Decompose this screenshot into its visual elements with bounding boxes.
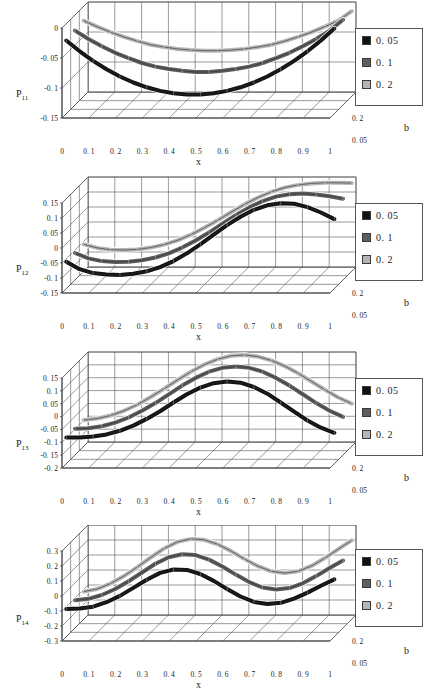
svg-text:0. 5: 0. 5 xyxy=(190,497,202,506)
svg-text:0: 0 xyxy=(54,244,58,253)
legend-p11: 0. 05 0. 1 0. 2 xyxy=(355,28,423,106)
legend-item-0-p12[interactable]: 0. 05 xyxy=(356,204,422,226)
legend-item-1-p12[interactable]: 0. 1 xyxy=(356,226,422,248)
svg-text:-0. 2: -0. 2 xyxy=(44,622,58,631)
svg-text:0. 5: 0. 5 xyxy=(190,670,202,679)
legend-item-0-p14[interactable]: 0. 05 xyxy=(356,550,422,572)
y-axis-title-p14: P14 xyxy=(16,613,29,627)
svg-text:0. 9: 0. 9 xyxy=(298,497,310,506)
legend-swatch-icon xyxy=(362,36,371,45)
svg-text:0. 4: 0. 4 xyxy=(164,147,176,156)
legend-item-1-p14[interactable]: 0. 1 xyxy=(356,572,422,594)
svg-text:-0. 1: -0. 1 xyxy=(44,607,58,616)
svg-text:-0. 15: -0. 15 xyxy=(41,289,59,298)
legend-swatch-icon xyxy=(362,233,371,242)
depth-tick-back-p14: 0. 2 xyxy=(352,637,363,646)
depth-axis-title-p14: b xyxy=(404,645,409,656)
svg-text:0. 2: 0. 2 xyxy=(47,562,59,571)
depth-tick-front-p12: 0. 05 xyxy=(352,311,367,320)
x-axis-title-p14: x xyxy=(196,679,201,690)
legend-p13: 0. 05 0. 1 0. 2 xyxy=(355,378,423,456)
legend-swatch-icon xyxy=(362,211,371,220)
svg-text:0. 7: 0. 7 xyxy=(244,497,256,506)
legend-swatch-icon xyxy=(362,557,371,566)
svg-text:0. 2: 0. 2 xyxy=(110,670,122,679)
chart-panel-p11: 0-0. 05-0. 1-0. 1500. 10. 20. 30. 40. 50… xyxy=(0,0,432,175)
svg-text:0. 8: 0. 8 xyxy=(271,497,283,506)
legend-item-1-p11[interactable]: 0. 1 xyxy=(356,51,422,73)
svg-text:0. 6: 0. 6 xyxy=(217,147,229,156)
svg-text:0. 2: 0. 2 xyxy=(110,322,122,331)
svg-text:0. 1: 0. 1 xyxy=(83,670,95,679)
legend-swatch-icon xyxy=(362,386,371,395)
svg-text:0. 6: 0. 6 xyxy=(217,497,229,506)
svg-text:0: 0 xyxy=(60,497,64,506)
x-axis-title-p13: x xyxy=(196,506,201,517)
svg-text:0. 9: 0. 9 xyxy=(298,670,310,679)
svg-text:1: 1 xyxy=(328,147,332,156)
svg-text:0. 3: 0. 3 xyxy=(137,497,149,506)
svg-text:0. 4: 0. 4 xyxy=(164,670,176,679)
svg-text:0. 1: 0. 1 xyxy=(83,322,95,331)
legend-swatch-icon xyxy=(362,58,371,67)
chart-panel-p12: 0. 150. 10. 050-0. 05-0. 1-0. 1500. 10. … xyxy=(0,175,432,350)
svg-text:0: 0 xyxy=(60,322,64,331)
depth-tick-front-p14: 0. 05 xyxy=(352,659,367,668)
depth-tick-back-p11: 0. 2 xyxy=(352,114,363,123)
svg-text:1: 1 xyxy=(328,322,332,331)
svg-text:0. 6: 0. 6 xyxy=(217,322,229,331)
depth-axis-title-p13: b xyxy=(404,472,409,483)
depth-tick-front-p13: 0. 05 xyxy=(352,486,367,495)
svg-text:0: 0 xyxy=(54,24,58,33)
svg-text:0. 7: 0. 7 xyxy=(244,147,256,156)
x-axis-title-p12: x xyxy=(196,331,201,342)
legend-item-2-p12[interactable]: 0. 2 xyxy=(356,248,422,270)
legend-item-1-p13[interactable]: 0. 1 xyxy=(356,401,422,423)
legend-swatch-icon xyxy=(362,430,371,439)
svg-text:-0. 2: -0. 2 xyxy=(44,464,58,473)
svg-text:-0. 05: -0. 05 xyxy=(41,425,59,434)
legend-item-2-p13[interactable]: 0. 2 xyxy=(356,423,422,445)
svg-text:0: 0 xyxy=(60,147,64,156)
svg-text:0. 8: 0. 8 xyxy=(271,322,283,331)
svg-text:1: 1 xyxy=(328,497,332,506)
svg-text:0. 1: 0. 1 xyxy=(47,577,59,586)
depth-axis-title-p11: b xyxy=(404,122,409,133)
y-axis-title-p11: P11 xyxy=(16,88,28,102)
legend-swatch-icon xyxy=(362,579,371,588)
svg-text:0: 0 xyxy=(54,592,58,601)
legend-item-2-p14[interactable]: 0. 2 xyxy=(356,594,422,616)
depth-tick-back-p12: 0. 2 xyxy=(352,289,363,298)
depth-tick-front-p11: 0. 05 xyxy=(352,136,367,145)
svg-text:0. 2: 0. 2 xyxy=(110,497,122,506)
legend-p12: 0. 05 0. 1 0. 2 xyxy=(355,203,423,281)
legend-swatch-icon xyxy=(362,255,371,264)
svg-text:0. 3: 0. 3 xyxy=(47,547,59,556)
svg-text:-0. 3: -0. 3 xyxy=(44,637,58,646)
svg-text:-0. 1: -0. 1 xyxy=(44,84,58,93)
svg-text:0. 1: 0. 1 xyxy=(83,147,95,156)
legend-item-2-p11[interactable]: 0. 2 xyxy=(356,73,422,95)
svg-text:0. 15: 0. 15 xyxy=(43,374,58,383)
svg-text:0. 1: 0. 1 xyxy=(83,497,95,506)
x-axis-title-p11: x xyxy=(196,156,201,167)
legend-item-0-p11[interactable]: 0. 05 xyxy=(356,29,422,51)
svg-text:0. 8: 0. 8 xyxy=(271,670,283,679)
depth-axis-title-p12: b xyxy=(404,297,409,308)
svg-text:-0. 05: -0. 05 xyxy=(41,54,59,63)
svg-text:-0. 15: -0. 15 xyxy=(41,451,59,460)
y-axis-title-p12: P12 xyxy=(16,263,29,277)
depth-tick-back-p13: 0. 2 xyxy=(352,464,363,473)
svg-text:-0. 1: -0. 1 xyxy=(44,438,58,447)
svg-text:0. 7: 0. 7 xyxy=(244,322,256,331)
legend-swatch-icon xyxy=(362,601,371,610)
svg-text:0. 1: 0. 1 xyxy=(47,387,59,396)
legend-item-0-p13[interactable]: 0. 05 xyxy=(356,379,422,401)
svg-text:0: 0 xyxy=(54,412,58,421)
chart-panel-p14: 0. 30. 20. 10-0. 1-0. 2-0. 300. 10. 20. … xyxy=(0,525,432,692)
y-axis-title-p13: P13 xyxy=(16,438,29,452)
svg-text:0: 0 xyxy=(60,670,64,679)
svg-text:0. 9: 0. 9 xyxy=(298,147,310,156)
svg-text:0. 15: 0. 15 xyxy=(43,199,58,208)
svg-text:0. 7: 0. 7 xyxy=(244,670,256,679)
